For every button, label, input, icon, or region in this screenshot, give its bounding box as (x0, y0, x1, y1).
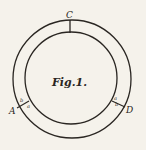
label-left-b: b (20, 97, 23, 103)
ring-diagram: C A D b a a b Fig.1. (0, 0, 146, 150)
figure-caption: Fig.1. (51, 76, 87, 89)
label-left-a: a (27, 103, 30, 109)
label-a: A (8, 106, 16, 116)
label-d: D (125, 105, 133, 115)
right-divider-line (112, 101, 125, 107)
label-right-b: b (115, 101, 118, 107)
figure-diagram: C A D b a a b Fig.1. (0, 0, 146, 150)
label-c: C (66, 10, 73, 20)
